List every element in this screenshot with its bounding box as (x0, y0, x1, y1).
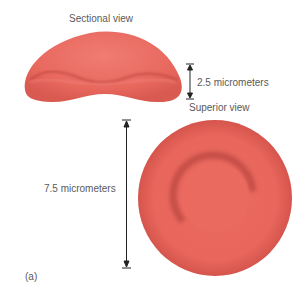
height-dimension-label: 2.5 micrometers (197, 78, 269, 88)
superior-view-title: Superior view (189, 103, 250, 113)
diagram-graphics (0, 0, 306, 295)
panel-label: (a) (25, 272, 37, 282)
superior-view-cell (138, 120, 292, 276)
red-blood-cell-figure: Sectional view 2.5 micrometers Superior … (0, 0, 306, 295)
diameter-dimension-label: 7.5 micrometers (44, 184, 116, 194)
sectional-view-title: Sectional view (69, 14, 133, 24)
diameter-dimension-arrow (122, 120, 131, 268)
sectional-view-cell (25, 32, 182, 102)
height-dimension-arrow (186, 64, 194, 99)
